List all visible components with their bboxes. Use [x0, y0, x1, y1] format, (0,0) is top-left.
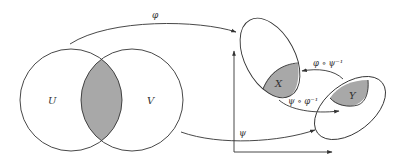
label-phi-psi-inverse: φ ∘ ψ⁻¹ [313, 58, 343, 68]
label-psi: ψ [239, 128, 247, 138]
label-u: U [48, 95, 57, 106]
psi-arrow [181, 130, 315, 141]
label-v: V [147, 95, 156, 106]
label-x: X [274, 78, 283, 89]
phi-psi-inverse-arrow [302, 70, 343, 79]
label-phi: φ [152, 10, 159, 20]
chart-psi-ellipse [303, 64, 397, 152]
intersection-region [81, 49, 183, 151]
coordinate-chart-diagram: U V φ ψ X Y φ ∘ ψ⁻¹ ψ ∘ φ⁻¹ [0, 0, 399, 161]
label-psi-phi-inverse: ψ ∘ φ⁻¹ [288, 96, 318, 106]
phi-arrow [70, 23, 236, 44]
